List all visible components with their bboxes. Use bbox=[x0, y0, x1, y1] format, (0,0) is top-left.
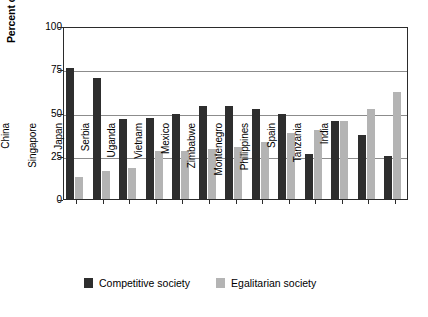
legend-item: Competitive society bbox=[84, 277, 190, 289]
x-axis-tick-label: Vietnam bbox=[133, 123, 144, 203]
x-axis-tick-label: Uganda bbox=[106, 123, 117, 203]
x-axis-tick-label: Spain bbox=[266, 123, 277, 203]
bar bbox=[199, 106, 207, 199]
x-axis-tick-label: Montenegro bbox=[213, 123, 224, 203]
bar bbox=[367, 109, 375, 199]
bar bbox=[393, 92, 401, 199]
x-axis-tick-mark bbox=[209, 200, 210, 204]
x-axis-tick-mark bbox=[156, 200, 157, 204]
bar bbox=[146, 118, 154, 199]
bar bbox=[331, 121, 339, 199]
x-axis-tick-label: Philippines bbox=[239, 123, 250, 203]
y-axis-title: Percent of respondents bbox=[2, 0, 20, 72]
bar bbox=[252, 109, 260, 199]
x-axis-tick-label: Zimbabwe bbox=[186, 123, 197, 203]
bar-group bbox=[356, 28, 383, 199]
bar bbox=[225, 106, 233, 199]
y-axis-tick-mark bbox=[58, 70, 63, 71]
legend-item: Egalitarian society bbox=[216, 277, 316, 289]
chart-legend: Competitive societyEgalitarian society bbox=[84, 277, 316, 289]
x-axis-tick-mark bbox=[76, 200, 77, 204]
x-axis-tick-mark bbox=[368, 200, 369, 204]
x-axis-tick-mark bbox=[342, 200, 343, 204]
bar-group bbox=[382, 28, 409, 199]
bar bbox=[119, 119, 127, 199]
y-axis-tick-mark bbox=[58, 114, 63, 115]
legend-label: Competitive society bbox=[99, 277, 190, 289]
legend-swatch bbox=[216, 278, 225, 288]
x-axis-tick-mark bbox=[129, 200, 130, 204]
legend-swatch bbox=[84, 278, 93, 288]
bar bbox=[66, 68, 74, 199]
x-axis-tick-label: Mexico bbox=[160, 123, 171, 203]
chart-figure: Percent of respondents Competitive socie… bbox=[0, 0, 428, 317]
x-axis-tick-label: India bbox=[319, 123, 330, 203]
x-axis-tick-label: Serbia bbox=[80, 123, 91, 203]
bar bbox=[340, 121, 348, 199]
bar bbox=[93, 78, 101, 199]
bar bbox=[384, 156, 392, 199]
x-axis-tick-mark bbox=[103, 200, 104, 204]
bar bbox=[358, 135, 366, 199]
x-axis-tick-mark bbox=[262, 200, 263, 204]
bar bbox=[278, 114, 286, 199]
x-axis-tick-label: China bbox=[0, 123, 11, 203]
bar-group bbox=[329, 28, 356, 199]
x-axis-tick-label: Japan bbox=[53, 123, 64, 203]
x-axis-tick-mark bbox=[236, 200, 237, 204]
x-axis-tick-mark bbox=[395, 200, 396, 204]
x-axis-tick-mark bbox=[289, 200, 290, 204]
x-axis-tick-label: Singapore bbox=[27, 123, 38, 203]
x-axis-tick-mark bbox=[315, 200, 316, 204]
bar bbox=[172, 114, 180, 199]
legend-label: Egalitarian society bbox=[231, 277, 316, 289]
bar bbox=[305, 154, 313, 199]
x-axis-tick-label: Tanzania bbox=[292, 123, 303, 203]
y-axis-tick-mark bbox=[58, 27, 63, 28]
x-axis-tick-mark bbox=[182, 200, 183, 204]
